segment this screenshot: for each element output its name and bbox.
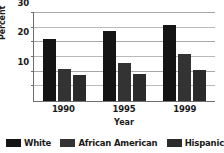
bar-chart: ·· · Percent 102030 199019951999 Year Wh… (0, 0, 224, 153)
plot-area: 102030 (33, 13, 215, 102)
legend-label: African American (78, 138, 157, 148)
bar-group (34, 13, 94, 101)
bar (163, 25, 176, 101)
bar-group (94, 13, 154, 101)
x-axis-tick-label: 1990 (33, 104, 94, 116)
bar (73, 75, 86, 101)
bar (103, 31, 116, 101)
legend-item[interactable]: African American (60, 138, 157, 148)
bar (43, 39, 56, 101)
legend-label: Hispanic (185, 138, 224, 148)
legend-label: White (24, 138, 51, 148)
x-axis-title: Year (33, 118, 215, 127)
legend-item[interactable]: White (6, 138, 51, 148)
bar-groups (34, 13, 215, 101)
y-axis-tick-label: 10 (18, 57, 29, 67)
legend-swatch-icon (6, 139, 21, 147)
x-axis-tick-labels: 199019951999 (33, 104, 215, 116)
bar (178, 54, 191, 101)
legend-swatch-icon (167, 139, 182, 147)
bar (118, 63, 131, 101)
y-axis-tick-label: 30 (18, 0, 29, 8)
chart-title-cropped: ·· · (0, 0, 224, 6)
legend-swatch-icon (60, 139, 75, 147)
legend-item[interactable]: Hispanic (167, 138, 224, 148)
x-axis-tick-label: 1995 (94, 104, 155, 116)
bar (193, 70, 206, 101)
y-axis-tick-label: 20 (18, 27, 29, 37)
bar-group (155, 13, 215, 101)
bar (58, 69, 71, 101)
x-axis-tick-label: 1999 (154, 104, 215, 116)
bar (133, 74, 146, 101)
y-axis-title: Percent (0, 6, 7, 40)
chart-legend: WhiteAfrican AmericanHispanic (6, 136, 224, 149)
